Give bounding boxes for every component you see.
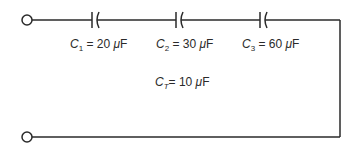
terminal-bottom-icon: [22, 132, 32, 142]
capacitor-c3-label: C3 = 60 μF: [242, 37, 299, 56]
capacitor-c2-label: C2 = 30 μF: [156, 37, 213, 56]
capacitor-c1-label: C1 = 20 μF: [70, 37, 127, 56]
terminal-top-icon: [22, 15, 32, 25]
total-capacitance-label: CT= 10 μF: [155, 75, 210, 94]
